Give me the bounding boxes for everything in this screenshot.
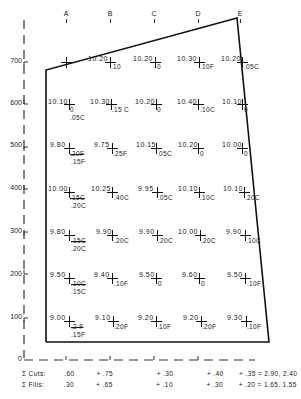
grid-point-marker [155,57,156,68]
cut-fill-a3-revised: .15F [71,158,85,165]
elevation-e6: 9.50 [227,271,243,278]
cut-fill-a2: 0 [70,106,74,113]
cut-fill-a2-revised: .05C [70,114,85,121]
cut-fill-d4: .10C [200,194,215,201]
cut-fill-c7: .10F [157,323,171,330]
elevation-e5: 9.90 [226,228,242,235]
cut-fill-d3: 0 [200,150,204,157]
elevation-a6: 9.50 [50,271,66,278]
cut-fill-b5: .20C [114,237,129,244]
grid-point-marker [242,143,243,154]
elevation-d6: 9.60 [182,271,198,278]
grid-point-marker [112,187,113,198]
cut-fill-b7: .20F [114,323,128,330]
cut-fill-c1: 0 [157,63,161,70]
cut-fill-e5: .10C [246,237,261,244]
cut-fill-b2: .15 C [112,106,129,113]
grid-point-marker [198,143,199,154]
cut-fill-a5-revised: .20C [71,245,86,252]
cut-fill-b3: .25F [113,150,127,157]
grid-point-marker [242,99,243,110]
cut-fill-e1: .05C [244,63,259,70]
cuts-value-c: + .30 [157,370,205,377]
cut-fill-c3: .05C [157,150,172,157]
elevation-c4: 9.95 [138,185,154,192]
elevation-c7: 9.20 [138,314,154,321]
cut-fill-b1: .10 [111,63,121,70]
cut-fill-a6-revised: .15C [71,288,86,295]
elevation-d4: 10.10 [178,185,198,192]
elevation-c1: 10.20 [133,55,153,62]
cuts-total: + .35 = 2.90, 2.40 [239,370,297,377]
elevation-e7: 9.30 [227,314,243,321]
cut-fill-a7-revised: .15F [71,331,85,338]
grid-point-marker [66,57,67,68]
cut-fill-e7: .10F [247,323,261,330]
grid-point-marker [112,230,113,241]
grid-point-marker [245,273,246,284]
fills-value-c: + .10 [156,381,204,388]
elevation-d1: 10.30 [177,55,197,62]
elevation-b5: 9.90 [96,228,112,235]
elevation-d5: 10.00 [178,228,198,235]
elevation-a7: 9.00 [50,314,66,321]
cuts-summary-row: Σ Cuts: .60 + .75 + .30 + .40 + .35 = 2.… [22,370,297,377]
cut-fill-a5: .15C [71,237,86,244]
cut-fill-d5: .20C [201,237,216,244]
grid-point-marker [199,273,200,284]
grid-point-marker [242,57,243,68]
grid-point-marker [69,230,70,241]
elevation-c6: 9.50 [139,271,155,278]
fills-value-a: .30 [64,381,94,388]
grid-point-marker [112,273,113,284]
cut-fill-c6: 0 [158,280,162,287]
grid-point-marker [69,273,70,284]
cut-fill-e6: .10F [247,280,261,287]
cuts-value-d: + .40 [207,370,237,377]
elevation-e1: 10.20 [221,55,241,62]
elevation-c3: 10.15 [136,141,156,148]
cut-fill-c2: 0 [157,106,161,113]
cut-fill-a4-revised: .20C [71,202,86,209]
grid-point-marker [156,273,157,284]
elevation-b6: 9.40 [94,271,110,278]
cut-fill-c5: .20C [158,237,173,244]
fills-label: Σ Fills: [22,381,44,388]
fills-value-b: + .65 [96,381,154,388]
elevation-b3: 9.75 [94,141,110,148]
elevation-d3: 10.20 [178,141,198,148]
elevation-b4: 10.25 [91,185,111,192]
cut-fill-c4: .05C [158,194,173,201]
grid-point-marker [198,99,199,110]
cut-fill-a3: .20F [70,150,84,157]
cuts-value-b: + .75 [96,370,154,377]
elevation-a4: 10.00 [48,185,68,192]
grid-point-marker [69,316,70,327]
grid-diagram: A B C D E 700 600 500 400 300 200 100 0 [0,0,301,399]
elevation-a3: 9.80 [50,141,66,148]
fills-value-d: + .30 [206,381,236,388]
elevation-e3: 10.00 [222,141,242,148]
cut-fill-d1: .10F [200,63,214,70]
elevation-e4: 10.10 [223,185,243,192]
fills-total: + .20 = 1.65, 1.55 [239,381,297,388]
fills-summary-row: Σ Fills: .30 + .65 + .10 + .30 + .20 = 1… [22,381,297,388]
cut-fill-a6: .10C [71,280,86,287]
cuts-value-a: .60 [64,370,94,377]
cuts-label: Σ Cuts: [22,370,46,377]
elevation-a5: 9.80 [50,228,66,235]
elevation-c5: 9.90 [139,228,155,235]
cut-fill-b4: .40C [114,194,129,201]
elevation-b1: 10.20 [88,55,108,62]
cut-fill-d2: .10C [200,106,215,113]
cut-fill-e4: .20C [245,194,260,201]
elevation-d7: 9.20 [183,314,199,321]
elevation-b7: 9.10 [95,314,111,321]
cut-fill-b6: .10F [114,280,128,287]
cut-fill-e3: 0 [244,150,248,157]
cut-fill-a7: .2 F [71,323,83,330]
cut-fill-d7: .20F [202,323,216,330]
cut-fill-e2: 0 [244,106,248,113]
cut-fill-d6: 0 [201,280,205,287]
cut-fill-a4: .15C [70,194,85,201]
